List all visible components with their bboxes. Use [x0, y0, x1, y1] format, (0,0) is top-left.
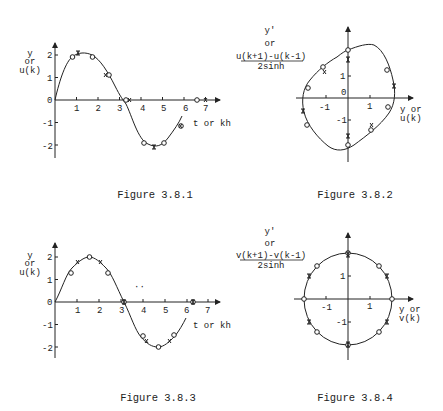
y-axis-label: y' [265, 227, 276, 237]
y-axis-label: u(k) [19, 268, 41, 278]
x-tick-label: 6 [183, 104, 188, 114]
x-tick-label: 2 [97, 306, 102, 316]
y-tick-label: -1 [42, 321, 53, 331]
figure-3-8-1: 1 2 3 4 5 6 7 2 1 0 -1 -2 y or u(k) t or… [19, 43, 231, 201]
figure-3-8-2: -1 1 1 0 -1 y' or u(k+1)-u(k-1) 2sinh y … [236, 26, 422, 201]
y-tick-label: 1 [47, 276, 52, 286]
x-tick-label: -1 [319, 103, 330, 113]
figure-page: 1 2 3 4 5 6 7 2 1 0 -1 -2 y or u(k) t or… [0, 0, 443, 411]
y-tick-label: 2 [47, 51, 52, 61]
x-tick-label: 1 [367, 302, 372, 312]
x-axis-label: u(k) [400, 114, 422, 124]
x-axis-label: t or kh [193, 119, 231, 129]
y-tick-label: 0 [47, 298, 52, 308]
x-tick-label: 1 [367, 102, 372, 112]
x-tick-label: 7 [203, 104, 208, 114]
x-axis-label: v(k) [399, 314, 421, 324]
y-tick-label: 0 [47, 96, 52, 106]
stray-mark: ·· [134, 282, 145, 292]
figure-caption: Figure 3.8.2 [317, 189, 393, 201]
y-tick-label: 1 [340, 72, 345, 82]
x-tick-label: 5 [161, 104, 166, 114]
x-tick-label: -1 [321, 303, 332, 313]
figure-3-8-4: -1 1 1 -1 y' or v(k+1)-v(k-1) 2sinh y or… [236, 227, 421, 404]
y-tick-label: 0 [341, 88, 346, 98]
y-tick-label: -2 [42, 344, 53, 354]
y-tick-label: -1 [42, 119, 53, 129]
y-tick-label: 2 [47, 253, 52, 263]
x-tick-label: 6 [184, 306, 189, 316]
y-axis-label: y' [265, 26, 276, 36]
x-tick-label: 5 [163, 306, 168, 316]
figure-3-8-3: 1 2 3 4 5 6 7 2 1 0 -1 -2 y or u(k) t or… [19, 243, 231, 404]
y-axis-label: u(k) [19, 66, 41, 76]
y-axis-label: 2sinh [257, 261, 284, 271]
y-tick-label: -2 [42, 142, 53, 152]
x-axis-label: t or kh [193, 321, 231, 331]
x-tick-label: 3 [117, 104, 122, 114]
figure-caption: Figure 3.8.3 [120, 392, 196, 404]
x-tick-label: 1 [74, 104, 79, 114]
x-tick-label: 3 [119, 306, 124, 316]
x-tick-label: 7 [205, 306, 210, 316]
x-tick-label: 2 [96, 104, 101, 114]
y-tick-label: -1 [336, 116, 347, 126]
y-axis-label: u(k+1)-u(k-1) [236, 52, 306, 62]
y-tick-label: 1 [47, 74, 52, 84]
y-tick-label: 1 [340, 272, 345, 282]
x-tick-label: 4 [141, 306, 146, 316]
y-axis-label: or [265, 39, 276, 49]
y-tick-label: -1 [336, 318, 347, 328]
y-axis-label: or [265, 239, 276, 249]
x-tick-label: 4 [140, 104, 145, 114]
x-tick-label: 1 [75, 306, 80, 316]
figure-caption: Figure 3.8.1 [117, 189, 193, 201]
y-axis-label: 2sinh [257, 62, 284, 72]
y-axis-label: v(k+1)-v(k-1) [236, 251, 306, 261]
figure-caption: Figure 3.8.4 [317, 392, 393, 404]
